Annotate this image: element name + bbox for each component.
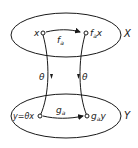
- commutative-diagram: X Y θ θ fa ga x fax y=θx gay: [0, 0, 138, 148]
- theta-label-left: θ: [39, 72, 45, 82]
- theta-arrowhead-left: [50, 74, 53, 79]
- node-x: [41, 31, 45, 35]
- node-y: [38, 114, 42, 118]
- f-a-arrow: [46, 30, 80, 32]
- g-a-arrow: [43, 116, 83, 118]
- node-gay-label: gay: [91, 111, 106, 122]
- node-y-label: y=θx: [12, 112, 34, 121]
- set-x-label: X: [123, 28, 132, 39]
- node-fax-label: fax: [90, 28, 103, 39]
- node-fax: [84, 31, 88, 35]
- node-x-label: x: [33, 28, 40, 38]
- set-x-ellipse: [11, 13, 121, 57]
- g-a-label: ga: [56, 105, 66, 116]
- node-gay: [85, 114, 89, 118]
- f-a-label: fa: [57, 35, 64, 46]
- theta-label-right: θ: [82, 72, 88, 82]
- set-y-label: Y: [124, 110, 131, 121]
